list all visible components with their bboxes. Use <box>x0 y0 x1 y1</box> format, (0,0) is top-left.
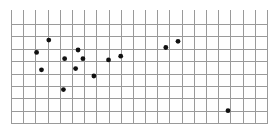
data-point <box>73 66 78 71</box>
data-point <box>106 57 111 62</box>
data-point <box>176 39 181 44</box>
data-point <box>91 74 96 79</box>
data-point <box>76 48 81 53</box>
data-point <box>226 108 231 113</box>
data-point <box>62 56 67 61</box>
data-point <box>39 67 44 72</box>
scatter-plot <box>0 0 274 132</box>
data-point <box>46 38 51 43</box>
data-point <box>61 87 66 92</box>
data-point <box>81 56 86 61</box>
data-point <box>163 45 168 50</box>
data-points <box>34 38 230 113</box>
data-point <box>118 54 123 59</box>
grid-lines <box>11 10 268 124</box>
data-point <box>34 50 39 55</box>
